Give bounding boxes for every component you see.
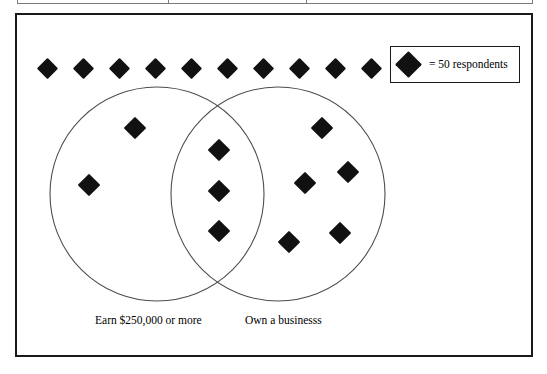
figure-frame: = 50 respondents Earn $250,000 or more <box>15 13 533 357</box>
table-column-divider-1 <box>168 0 169 3</box>
table-column-divider-2 <box>306 0 307 3</box>
top-table-strip <box>17 0 533 4</box>
earn-circle <box>50 87 264 301</box>
screenshot-canvas: = 50 respondents Earn $250,000 or more <box>0 0 547 374</box>
venn-layer <box>17 15 531 355</box>
business-circle-label: Own a businesss <box>245 315 322 327</box>
earn-circle-label: Earn $250,000 or more <box>95 315 202 327</box>
business-circle <box>171 87 385 301</box>
